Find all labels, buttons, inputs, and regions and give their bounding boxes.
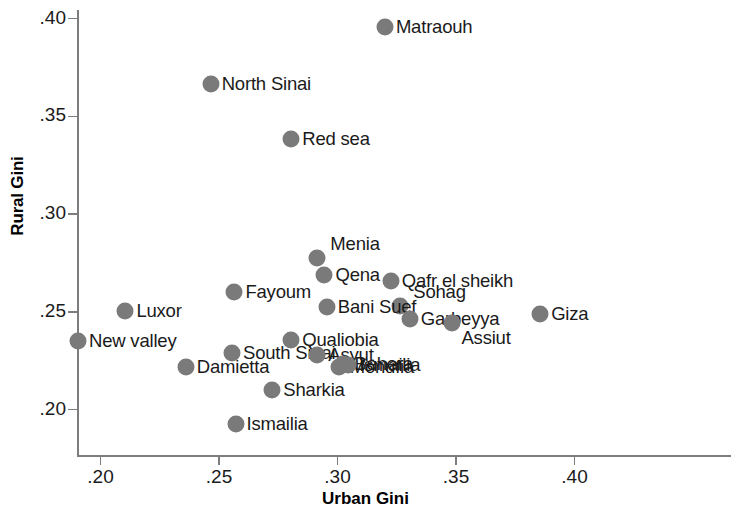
x-tick-label: .35	[426, 466, 486, 488]
y-axis-line	[77, 10, 79, 456]
data-point-marker	[401, 310, 418, 327]
data-point-label: Red sea	[302, 128, 370, 150]
y-tick-mark	[68, 213, 77, 215]
y-tick-mark	[68, 116, 77, 118]
y-tick-mark	[68, 18, 77, 20]
x-axis-title: Urban Gini	[0, 489, 731, 509]
data-point-marker	[202, 75, 219, 92]
data-point-marker	[177, 359, 194, 376]
data-point-label: Menia	[330, 233, 379, 255]
x-tick-mark	[455, 456, 457, 465]
y-tick-label: .25	[6, 300, 66, 322]
data-point-label: Damietta	[197, 356, 269, 378]
scatter-plot-figure: .20.25.30.35.40 .20.25.30.35.40 Matraouh…	[0, 0, 731, 514]
data-point-marker	[340, 356, 357, 373]
data-point-marker	[309, 249, 326, 266]
data-point-label: New valley	[89, 330, 176, 352]
y-tick-mark	[68, 311, 77, 313]
data-point-marker	[117, 302, 134, 319]
data-point-marker	[382, 273, 399, 290]
data-point-label: Sharkia	[283, 379, 344, 401]
data-point-label: Fayoum	[245, 281, 311, 303]
data-point-label: Assiut	[461, 327, 510, 349]
data-point-label: Sohag	[413, 281, 466, 303]
x-tick-label: .40	[545, 466, 605, 488]
data-point-label: Giza	[551, 303, 588, 325]
y-tick-label: .20	[6, 398, 66, 420]
x-tick-mark	[574, 456, 576, 465]
x-axis-line	[77, 455, 731, 457]
data-point-label: Ismailia	[359, 354, 420, 376]
x-tick-mark	[218, 456, 220, 465]
data-point-marker	[318, 298, 335, 315]
data-point-marker	[69, 333, 86, 350]
x-tick-mark	[100, 456, 102, 465]
data-point-marker	[532, 305, 549, 322]
x-tick-label: .25	[189, 466, 249, 488]
data-point-marker	[264, 381, 281, 398]
y-tick-mark	[68, 409, 77, 411]
data-point-marker	[227, 416, 244, 433]
data-point-marker	[226, 284, 243, 301]
data-point-label: Qena	[335, 264, 379, 286]
data-point-marker	[376, 19, 393, 36]
x-tick-label: .20	[71, 466, 131, 488]
data-point-label: Ismailia	[247, 413, 308, 435]
data-point-marker	[309, 346, 326, 363]
data-point-label: Matraouh	[396, 16, 473, 38]
y-tick-label: .40	[6, 7, 66, 29]
data-point-marker	[283, 130, 300, 147]
y-axis-title: Rural Gini	[8, 116, 28, 276]
x-tick-mark	[337, 456, 339, 465]
data-point-marker	[444, 315, 461, 332]
x-tick-label: .30	[308, 466, 368, 488]
data-point-label: Luxor	[136, 300, 181, 322]
data-point-marker	[316, 266, 333, 283]
data-point-label: North Sinai	[222, 73, 311, 95]
